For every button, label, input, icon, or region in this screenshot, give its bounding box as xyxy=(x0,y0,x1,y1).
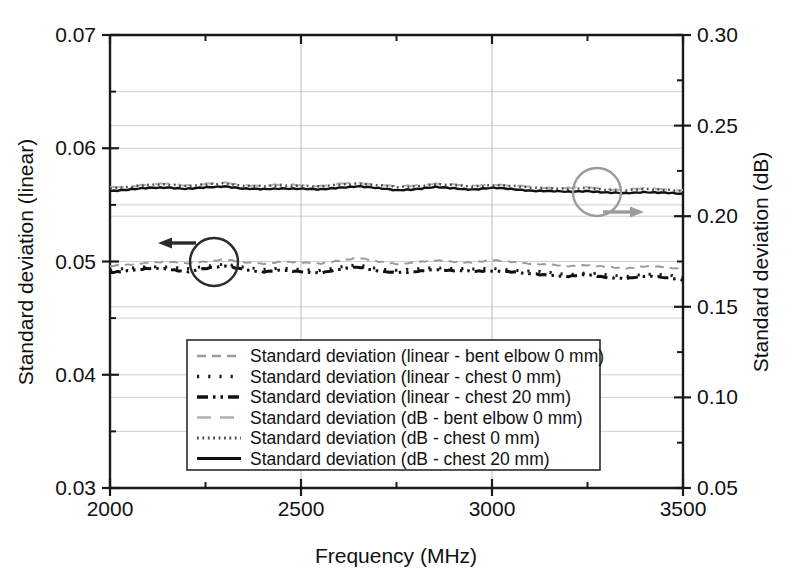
y-left-ticklabel: 0.07 xyxy=(55,23,96,46)
y-right-ticklabel: 0.05 xyxy=(697,476,738,499)
y-right-ticklabel: 0.15 xyxy=(697,295,738,318)
x-ticklabel: 3500 xyxy=(660,497,707,520)
legend-item: Standard deviation (dB - chest 20 mm) xyxy=(197,449,550,469)
legend-label: Standard deviation (linear - bent elbow … xyxy=(250,346,604,366)
y-right-ticklabel: 0.10 xyxy=(697,385,738,408)
figure-background xyxy=(0,0,796,580)
y-left-ticklabel: 0.06 xyxy=(55,136,96,159)
legend-label: Standard deviation (dB - chest 20 mm) xyxy=(250,449,550,469)
y-left-ticklabel: 0.03 xyxy=(55,476,96,499)
standard-deviation-vs-frequency-chart: 0.070.060.050.040.03 0.300.250.200.150.1… xyxy=(0,0,796,580)
y-right-ticklabel: 0.25 xyxy=(697,114,738,137)
y-left-axis-title: Standard deviation (linear) xyxy=(14,139,37,385)
legend-label: Standard deviation (dB - chest 0 mm) xyxy=(250,428,540,448)
y-right-ticklabel: 0.20 xyxy=(697,204,738,227)
legend-item: Standard deviation (linear - bent elbow … xyxy=(197,346,604,366)
legend-label: Standard deviation (linear - chest 0 mm) xyxy=(250,367,561,387)
legend-item: Standard deviation (linear - chest 20 mm… xyxy=(197,387,571,407)
x-axis-title: Frequency (MHz) xyxy=(315,544,477,567)
legend-item: Standard deviation (dB - bent elbow 0 mm… xyxy=(197,408,583,428)
y-right-ticklabel: 0.30 xyxy=(697,23,738,46)
x-ticklabel: 3000 xyxy=(469,497,516,520)
x-ticklabel: 2000 xyxy=(87,497,134,520)
legend-label: Standard deviation (linear - chest 20 mm… xyxy=(250,387,571,407)
y-left-ticklabel: 0.04 xyxy=(55,363,96,386)
legend-item: Standard deviation (linear - chest 0 mm) xyxy=(197,367,561,387)
y-right-axis-title: Standard deviation (dB) xyxy=(749,152,772,373)
x-ticklabel: 2500 xyxy=(278,497,325,520)
chart-figure: 0.070.060.050.040.03 0.300.250.200.150.1… xyxy=(0,0,796,580)
y-left-ticklabel: 0.05 xyxy=(55,250,96,273)
chart-legend: Standard deviation (linear - bent elbow … xyxy=(187,340,604,470)
legend-label: Standard deviation (dB - bent elbow 0 mm… xyxy=(250,408,583,428)
